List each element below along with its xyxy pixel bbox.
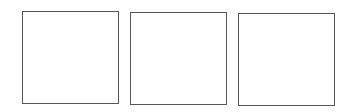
box-3 bbox=[238, 13, 335, 106]
box-1 bbox=[22, 11, 119, 104]
box-2 bbox=[130, 12, 227, 105]
